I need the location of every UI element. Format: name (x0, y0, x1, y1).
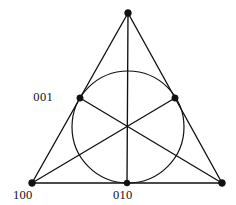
tangent-dot-left-edge (77, 95, 83, 101)
label-100: 100 (13, 188, 33, 202)
label-001: 001 (33, 90, 53, 104)
vertex-dot-apex (125, 10, 132, 17)
vertex-dot-bottom-right (219, 180, 226, 187)
triangle-incircle-diagram: 001 100 010 (0, 0, 236, 205)
figure-container: 001 100 010 (0, 0, 236, 205)
label-010: 010 (113, 188, 133, 202)
tangent-dot-bottom-edge (124, 180, 130, 186)
tangent-dot-right-edge (172, 95, 178, 101)
vertex-dot-bottom-left (29, 180, 36, 187)
